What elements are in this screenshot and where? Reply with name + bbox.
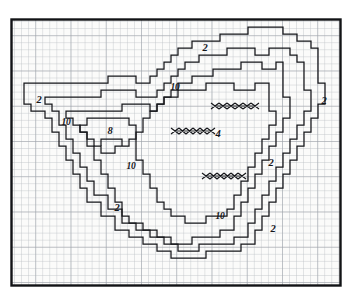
contour-label-top-center: 2 <box>202 43 207 54</box>
contour-map-figure: 2102210841022102 <box>0 0 355 299</box>
contour-labels-layer: 2102210841022102 <box>0 0 355 299</box>
contour-label-center-core: 4 <box>215 129 220 140</box>
contour-label-lower-right: 2 <box>270 224 275 235</box>
contour-label-right-outer: 2 <box>321 96 326 107</box>
contour-label-center-left: 10 <box>126 162 135 172</box>
contour-label-right-mid: 2 <box>268 158 273 169</box>
contour-label-left-outer: 2 <box>36 95 41 106</box>
contour-label-left-inner: 10 <box>61 118 70 128</box>
contour-label-lower-left: 2 <box>114 203 119 214</box>
contour-label-lower-center: 10 <box>215 212 224 222</box>
contour-label-left-core: 8 <box>107 126 112 137</box>
contour-label-upper-center: 10 <box>170 83 179 93</box>
